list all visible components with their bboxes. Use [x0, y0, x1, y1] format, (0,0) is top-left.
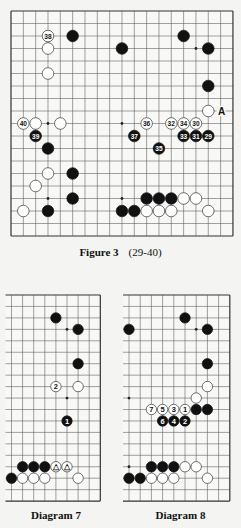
- move-number: 1: [183, 405, 187, 414]
- figure3-title: Figure 3: [79, 246, 118, 258]
- move-number: 6: [161, 417, 165, 426]
- black-stone: [202, 404, 212, 414]
- star-point: [128, 465, 131, 468]
- white-stone-1: 1: [180, 404, 190, 414]
- star-point: [195, 328, 198, 331]
- figure3-move-range: (29-40): [129, 246, 162, 258]
- white-stone: [191, 462, 201, 472]
- black-stone: [202, 359, 212, 369]
- black-stone-2: 2: [180, 416, 190, 426]
- black-stone: [124, 473, 134, 483]
- white-stone: [202, 381, 212, 391]
- black-stone: [124, 324, 134, 334]
- black-stone: [157, 462, 167, 472]
- black-stone: [169, 462, 179, 472]
- white-stone-3: 3: [169, 404, 179, 414]
- move-number: 7: [149, 405, 153, 414]
- black-stone: [135, 473, 145, 483]
- move-number: 5: [161, 405, 165, 414]
- figure3-caption: Figure 3(29-40): [0, 246, 241, 258]
- black-stone-6: 6: [157, 416, 167, 426]
- white-stone: [180, 462, 190, 472]
- white-stone-5: 5: [157, 404, 167, 414]
- star-point: [128, 397, 131, 400]
- move-number: 3: [172, 405, 176, 414]
- white-stone: [146, 473, 156, 483]
- black-stone: [146, 462, 156, 472]
- white-stone: [169, 473, 179, 483]
- white-stone: [202, 473, 212, 483]
- black-stone-4: 4: [169, 416, 179, 426]
- white-stone: [191, 393, 201, 403]
- white-stone: [157, 473, 167, 483]
- diagram7-caption: Diagram 7: [0, 509, 112, 521]
- diagram8-caption: Diagram 8: [120, 509, 241, 521]
- black-stone: [191, 404, 201, 414]
- move-number: 2: [183, 417, 187, 426]
- black-stone: [202, 324, 212, 334]
- black-stone: [180, 313, 190, 323]
- white-stone-7: 7: [146, 404, 156, 414]
- diagram8-board: 7531642: [0, 0, 241, 528]
